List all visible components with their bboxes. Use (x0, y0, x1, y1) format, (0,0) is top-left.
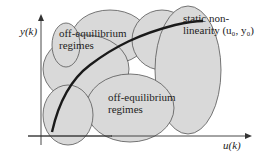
regime-label-bottom-line2: regimes (108, 103, 143, 115)
curve-label-line2: linearity (u₀, y₀) (183, 24, 254, 36)
regime-label-top-line2: regimes (59, 39, 94, 51)
x-axis-label: u(k) (223, 139, 241, 151)
curve-label-line1: static non- (183, 12, 229, 24)
regime-label-top-line1: off-equilibrium (59, 27, 127, 39)
y-axis-label: y(k) (20, 25, 37, 37)
x-axis-arrow-icon (245, 133, 252, 139)
regime-label-bottom-line1: off-equilibrium (108, 91, 176, 103)
y-axis-arrow-icon (38, 14, 44, 21)
